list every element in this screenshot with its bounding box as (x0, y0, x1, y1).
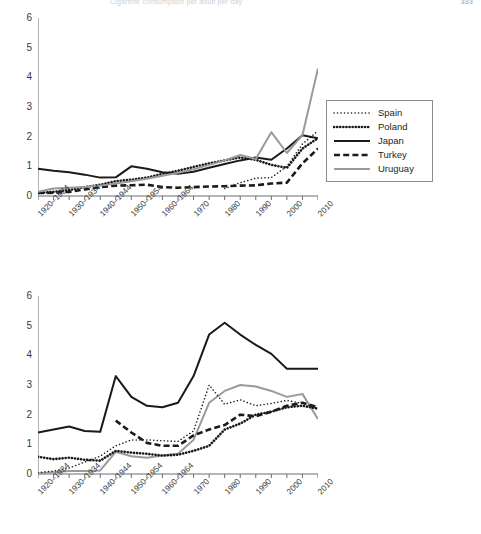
series-line (38, 138, 318, 193)
x-axis-tick-label: 2010 (316, 477, 335, 496)
series-line (38, 406, 318, 461)
legend-label: Spain (378, 107, 402, 119)
legend-label: Turkey (378, 149, 407, 161)
legend-top: SpainPolandJapanTurkeyUruguay (326, 100, 433, 182)
chart-panel-bottom: 1920–19241930–19341940–19441950–19541960… (0, 286, 481, 534)
x-axis-tick-label: 2010 (316, 199, 335, 218)
legend-label: Poland (378, 121, 408, 133)
legend-swatch-icon (333, 121, 371, 133)
y-axis-tick-label: 1 (18, 160, 32, 171)
plot-area-top (38, 14, 318, 206)
figure-page: Cigarette consumption per adult per day … (0, 0, 481, 534)
y-axis-tick-label: 5 (18, 42, 32, 53)
legend-item: Uruguay (333, 162, 425, 176)
y-axis-tick-label: 6 (18, 290, 32, 301)
y-axis-tick-label: 0 (18, 190, 32, 201)
y-axis-tick-label: 5 (18, 320, 32, 331)
series-line (38, 323, 318, 433)
y-axis-tick-label: 4 (18, 349, 32, 360)
y-axis-tick-label: 2 (18, 409, 32, 420)
y-axis-tick-label: 6 (18, 12, 32, 23)
plot-bottom-svg (38, 292, 318, 484)
legend-swatch-icon (333, 149, 371, 161)
x-axis-labels-bottom: 1920–19241930–19341940–19441950–19541960… (0, 486, 481, 534)
legend-item: Japan (333, 134, 425, 148)
legend-label: Uruguay (378, 163, 414, 175)
y-axis-tick-label: 4 (18, 71, 32, 82)
x-axis-labels-top: 1920–19241930–19341940–19441950–19541960… (0, 208, 481, 268)
y-axis-tick-label: 3 (18, 379, 32, 390)
y-axis-tick-label: 3 (18, 101, 32, 112)
plot-top-svg (38, 14, 318, 206)
chart-panel-top: 1920–19241930–19341940–19441950–19541960… (0, 8, 481, 266)
legend-item: Spain (333, 106, 425, 120)
legend-swatch-icon (333, 107, 371, 119)
legend-item: Turkey (333, 148, 425, 162)
y-axis-tick-label: 0 (18, 468, 32, 479)
y-axis-tick-label: 2 (18, 131, 32, 142)
legend-swatch-icon (333, 135, 371, 147)
legend-label: Japan (378, 135, 404, 147)
legend-item: Poland (333, 120, 425, 134)
running-head-title: Cigarette consumption per adult per day (110, 0, 242, 5)
running-head-page-number: 333 (461, 0, 473, 5)
y-axis-tick-label: 1 (18, 438, 32, 449)
plot-area-bottom (38, 292, 318, 484)
legend-swatch-icon (333, 163, 371, 175)
